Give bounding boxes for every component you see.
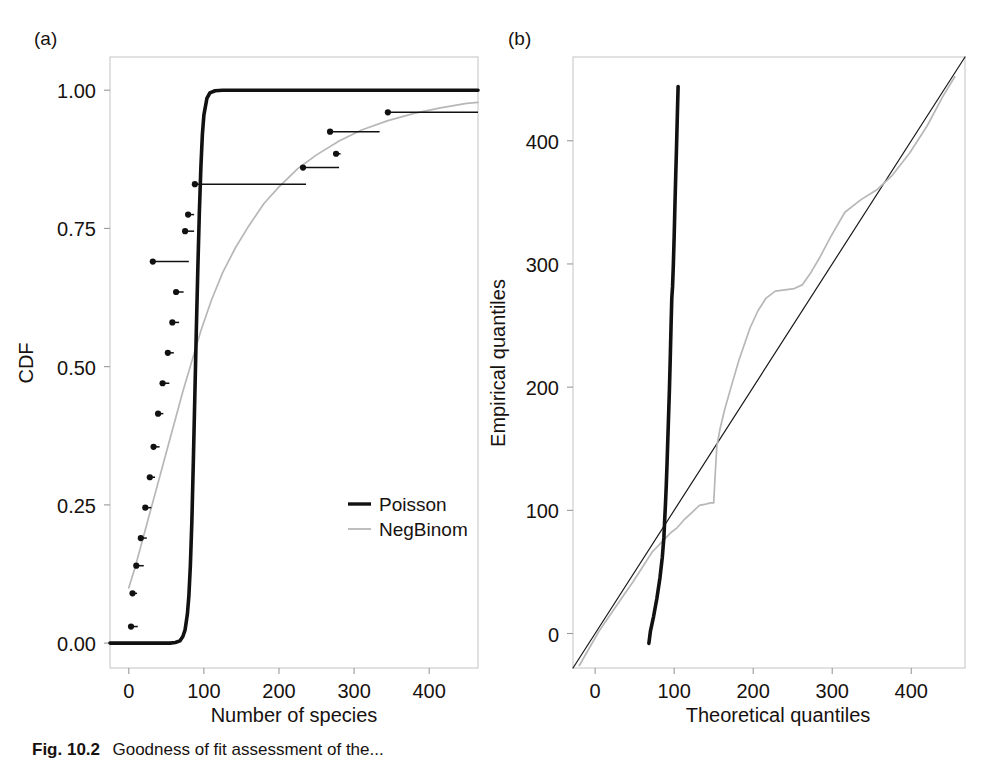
empirical-step-point [150, 444, 156, 450]
y-tick-label: 0.75 [57, 218, 96, 240]
x-tick-label: 400 [895, 680, 928, 702]
x-tick-label: 200 [262, 680, 295, 702]
empirical-step-point [138, 535, 144, 541]
empirical-step-point [128, 623, 134, 629]
y-tick-label: 200 [526, 377, 559, 399]
caption-line: Fig. 10.2 Goodness of fit assessment of … [32, 740, 384, 759]
empirical-step-point [327, 129, 333, 135]
empirical-step-point [133, 563, 139, 569]
panel-a-x-axis-title: Number of species [211, 704, 378, 726]
caption-body: Goodness of fit assessment of the... [112, 740, 383, 759]
empirical-step-point [150, 258, 156, 264]
y-tick-label: 300 [526, 254, 559, 276]
panel-a-tag: (a) [34, 28, 57, 49]
y-tick-label: 1.00 [57, 80, 96, 102]
y-tick-label: 0.50 [57, 357, 96, 379]
x-tick-label: 300 [816, 680, 849, 702]
y-tick-label: 0.00 [57, 633, 96, 655]
y-tick-label: 100 [526, 500, 559, 522]
x-tick-label: 400 [412, 680, 445, 702]
y-tick-label: 0.25 [57, 495, 96, 517]
panel-b-x-axis-title: Theoretical quantiles [686, 704, 871, 726]
figure-svg: (a) 0.000.250.500.751.00 0100200300400 N… [0, 0, 990, 759]
panel-b-y-axis-title: Empirical quantiles [487, 279, 509, 447]
empirical-step-point [147, 474, 153, 480]
x-tick-label: 0 [590, 680, 601, 702]
panel-a-y-axis-title: CDF [15, 342, 37, 383]
empirical-step-point [182, 228, 188, 234]
x-tick-label: 100 [657, 680, 690, 702]
caption-label: Fig. 10.2 [32, 740, 100, 759]
figure-container: (a) 0.000.250.500.751.00 0100200300400 N… [0, 0, 990, 759]
empirical-step-point [169, 319, 175, 325]
x-tick-label: 300 [337, 680, 370, 702]
y-tick-label: 400 [526, 131, 559, 153]
empirical-step-point [192, 181, 198, 187]
empirical-step-point [155, 411, 161, 417]
empirical-step-point [385, 109, 391, 115]
empirical-step-point [300, 164, 306, 170]
figure-caption: Fig. 10.2 Goodness of fit assessment of … [32, 740, 384, 759]
empirical-step-point [142, 505, 148, 511]
empirical-step-point [165, 350, 171, 356]
y-tick-label: 0 [548, 624, 559, 646]
x-tick-label: 200 [737, 680, 770, 702]
panel-b-tag: (b) [508, 28, 531, 49]
legend-label-poisson: Poisson [379, 494, 447, 515]
empirical-step-point [333, 151, 339, 157]
empirical-step-point [159, 380, 165, 386]
x-tick-label: 100 [187, 680, 220, 702]
empirical-step-point [129, 590, 135, 596]
empirical-step-point [173, 289, 179, 295]
legend-label-negbinom: NegBinom [379, 519, 468, 540]
x-tick-label: 0 [123, 680, 134, 702]
empirical-step-point [185, 211, 191, 217]
